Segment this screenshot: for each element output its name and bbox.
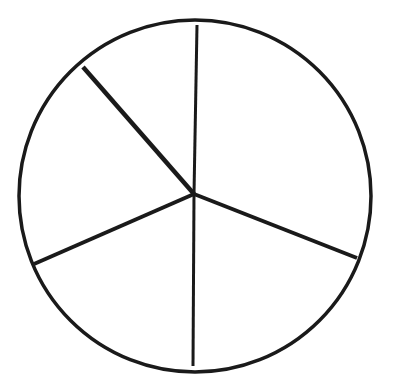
- radii-group: [34, 25, 357, 366]
- radius-upper-left: [83, 67, 194, 194]
- radius-bottom: [193, 194, 194, 366]
- pie-diagram: [0, 0, 395, 392]
- radius-lower-left: [34, 194, 194, 264]
- radius-lower-right: [194, 194, 357, 258]
- radius-top: [194, 25, 197, 194]
